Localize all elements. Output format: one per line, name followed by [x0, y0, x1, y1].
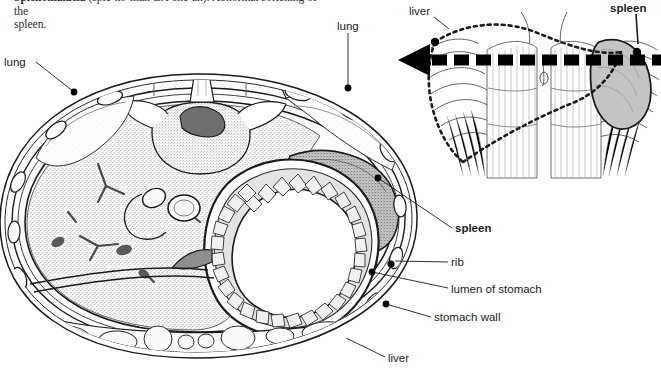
- torso-orientation-inset: [425, 6, 661, 181]
- label-lung-top: lung: [337, 20, 359, 32]
- definition-term: Splenomalacia: [14, 0, 86, 3]
- label-lumen-of-stomach: lumen of stomach: [451, 283, 542, 295]
- label-spleen-inset: spleen: [610, 2, 646, 14]
- liver-marker-dot: [431, 38, 439, 46]
- definition-pronunciation: (sple-no-mah-LA-she-ah): [88, 0, 206, 3]
- definition-paragraph: Splenomalacia (sple-no-mah-LA-she-ah): A…: [0, 0, 330, 32]
- ct-cross-section-illustration: [0, 36, 422, 369]
- label-rib: rib: [451, 256, 464, 268]
- label-stomach-wall: stomach wall: [434, 311, 500, 323]
- label-liver-inset: liver: [409, 5, 430, 17]
- label-spleen-ct: spleen: [455, 222, 491, 234]
- abdominal-musculature: [487, 41, 601, 178]
- rib-marker-dot: [387, 260, 394, 267]
- definition-second-line: spleen.: [0, 18, 330, 32]
- inset-spleen-marker-dot: [633, 48, 641, 56]
- definition-first-line: Splenomalacia (sple-no-mah-LA-she-ah): A…: [0, 0, 330, 18]
- label-liver-bottom: liver: [388, 352, 409, 364]
- label-lung-left: lung: [4, 56, 26, 68]
